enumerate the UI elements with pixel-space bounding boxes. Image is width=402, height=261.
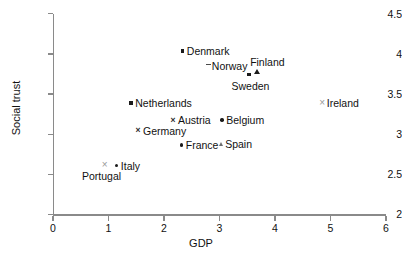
- point-label-france: France: [186, 140, 219, 151]
- data-point-france: [180, 143, 183, 146]
- x-tick-label: 6: [371, 223, 401, 234]
- x-tick-mark: [52, 216, 53, 221]
- data-point-portugal: ×: [102, 160, 108, 170]
- y-axis-line: [53, 14, 54, 215]
- x-tick-label: 3: [205, 223, 235, 234]
- scatter-plot: 22.533.544.5 0123456 GDP Social trust De…: [0, 0, 402, 261]
- data-point-sweden: [247, 73, 250, 76]
- point-label-belgium: Belgium: [226, 115, 264, 126]
- data-point-austria: ×: [170, 116, 175, 125]
- point-label-ireland: Ireland: [327, 98, 359, 109]
- point-label-sweden: Sweden: [232, 81, 270, 92]
- data-point-italy: [115, 164, 118, 167]
- data-point-ireland: ×: [319, 98, 325, 108]
- y-tick-mark: [48, 93, 53, 94]
- y-tick-label: 4: [358, 49, 402, 60]
- y-tick-mark: [48, 53, 53, 54]
- x-tick-mark: [163, 216, 164, 221]
- x-tick-label: 5: [316, 223, 346, 234]
- point-label-denmark: Denmark: [187, 46, 230, 57]
- point-label-netherlands: Netherlands: [135, 98, 192, 109]
- y-tick-mark: [48, 134, 53, 135]
- x-tick-mark: [330, 216, 331, 221]
- data-point-netherlands: [129, 101, 132, 104]
- data-point-belgium: [220, 118, 223, 121]
- x-tick-mark: [274, 216, 275, 221]
- y-tick-label: 2: [358, 209, 402, 220]
- x-tick-label: 0: [38, 223, 68, 234]
- data-point-spain: [219, 142, 223, 146]
- point-label-portugal: Portugal: [82, 171, 121, 182]
- y-tick-mark: [48, 13, 53, 14]
- point-label-finland: Finland: [250, 57, 284, 68]
- y-tick-label: 3: [358, 129, 402, 140]
- y-tick-label: 4.5: [358, 9, 402, 20]
- y-tick-mark: [48, 174, 53, 175]
- y-axis-title: Social trust: [10, 48, 22, 168]
- x-tick-label: 2: [149, 223, 179, 234]
- y-tick-label: 3.5: [358, 89, 402, 100]
- x-tick-mark: [385, 216, 386, 221]
- x-tick-label: 4: [260, 223, 290, 234]
- point-label-germany: Germany: [143, 126, 186, 137]
- data-point-denmark: [181, 49, 184, 52]
- x-tick-label: 1: [94, 223, 124, 234]
- y-tick-label: 2.5: [358, 169, 402, 180]
- point-label-spain: Spain: [225, 139, 252, 150]
- point-label-italy: Italy: [121, 161, 140, 172]
- x-axis-title: GDP: [0, 237, 402, 249]
- data-point-finland: [254, 69, 260, 74]
- data-point-norway: [206, 64, 211, 65]
- x-tick-mark: [108, 216, 109, 221]
- point-label-norway: Norway: [212, 61, 248, 72]
- data-point-germany: ×: [136, 126, 141, 135]
- x-tick-mark: [219, 216, 220, 221]
